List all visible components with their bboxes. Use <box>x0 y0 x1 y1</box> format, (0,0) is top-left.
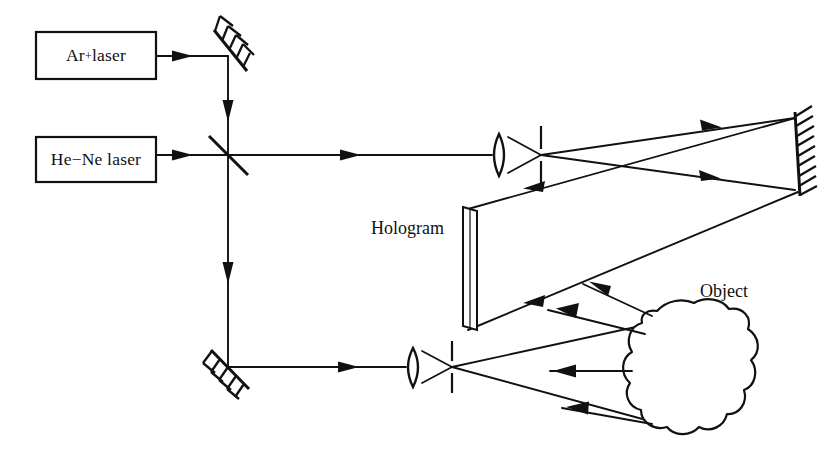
ar-laser-label: Ar+ laser <box>36 32 156 79</box>
optics-diagram: Ar+ laser He−Ne laser Hologram Object <box>0 0 828 451</box>
beam-object-lens-cone-upper <box>422 351 452 367</box>
object-beam-lens[interactable] <box>408 348 418 387</box>
reference-beam-lens[interactable] <box>494 134 504 176</box>
beam-lens-cone-lower <box>508 155 541 173</box>
object-shape[interactable] <box>623 299 758 434</box>
arrowhead-vertical-down-upper <box>223 100 234 122</box>
arrowhead-vertical-down-lower <box>223 262 234 284</box>
arrowhead-reference-arm <box>340 150 361 161</box>
beam-lens-cone-upper <box>508 137 541 155</box>
hene-laser-label: He−Ne laser <box>36 137 156 182</box>
beam-mirror-to-hologram-top <box>468 118 795 209</box>
beam-mirror-to-hologram-bottom <box>468 192 798 330</box>
hologram-label: Hologram <box>371 218 444 239</box>
ar-laser-label-suffix: laser <box>92 45 126 66</box>
beam-reference-to-mirror-top <box>541 118 795 155</box>
arrowhead-hene-beam <box>172 150 193 161</box>
arrowhead-mirror-to-hologram-top <box>523 181 545 192</box>
arrowhead-ar-beam <box>172 51 193 62</box>
object-label: Object <box>700 281 748 302</box>
arrowhead-object-arm <box>338 362 359 373</box>
arrowhead-object-scatter-3 <box>553 365 576 378</box>
beam-object-scatter-2 <box>548 310 645 334</box>
turning-mirror-hatching <box>215 16 254 67</box>
arrowhead-object-scatter-4 <box>566 402 589 415</box>
turning-mirror-face[interactable] <box>214 30 247 71</box>
beam-reference-to-mirror-bottom <box>541 155 795 190</box>
ar-laser-label-prefix: Ar <box>66 45 85 66</box>
beam-object-scatter-1 <box>583 284 652 316</box>
folding-mirror-hatching <box>203 351 244 399</box>
beam-object-lens-cone-lower <box>422 367 452 383</box>
